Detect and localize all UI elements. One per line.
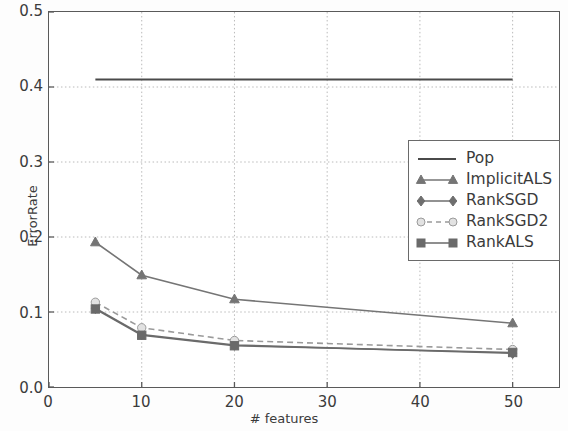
legend-label: ImplicitALS bbox=[466, 172, 552, 188]
series-line-rankals bbox=[95, 309, 512, 353]
x-tick-label: 30 bbox=[297, 393, 357, 411]
x-tick-label: 40 bbox=[390, 393, 450, 411]
legend-label: RankSGD2 bbox=[466, 214, 548, 230]
y-tick-label: 0.1 bbox=[0, 304, 43, 322]
legend-label: RankSGD bbox=[466, 193, 539, 209]
legend-marker-diamond-icon bbox=[415, 192, 459, 210]
legend-marker-triangle-icon bbox=[415, 171, 459, 189]
legend-item-ranksgd2: RankSGD2 bbox=[415, 211, 551, 232]
error-rate-line-chart: ErrorRate 0.00.10.20.30.40.5 01020304050… bbox=[0, 0, 568, 431]
legend-item-rankals: RankALS bbox=[415, 232, 551, 253]
legend-marker-circle-icon bbox=[415, 213, 459, 231]
legend-marker-none-icon bbox=[415, 150, 459, 168]
x-tick-label: 10 bbox=[111, 393, 171, 411]
legend-item-ranksgd: RankSGD bbox=[415, 190, 551, 211]
x-axis-title: # features bbox=[0, 411, 568, 426]
legend: PopImplicitALSRankSGDRankSGD2RankALS bbox=[408, 140, 560, 261]
series-line-ranksgd bbox=[95, 308, 512, 353]
x-tick-label: 0 bbox=[18, 393, 78, 411]
y-tick-label: 0.4 bbox=[0, 77, 43, 95]
legend-label: RankALS bbox=[466, 235, 534, 251]
y-tick-label: 0.3 bbox=[0, 153, 43, 171]
x-tick-label: 20 bbox=[204, 393, 264, 411]
legend-item-implicitals: ImplicitALS bbox=[415, 169, 551, 190]
legend-item-pop: Pop bbox=[415, 148, 551, 169]
legend-label: Pop bbox=[466, 151, 494, 167]
y-tick-label: 0.5 bbox=[0, 2, 43, 20]
legend-marker-square-icon bbox=[415, 234, 459, 252]
series-line-ranksgd2 bbox=[95, 302, 512, 349]
x-tick-label: 50 bbox=[483, 393, 543, 411]
y-tick-label: 0.2 bbox=[0, 228, 43, 246]
